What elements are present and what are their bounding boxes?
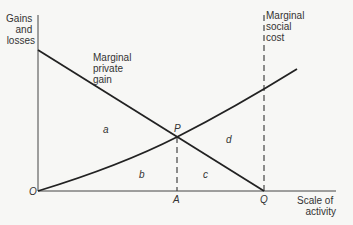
area-b-label: b (139, 169, 145, 180)
y-axis-label: Gains and losses (6, 13, 35, 46)
marginal-social-cost-label: Marginal social cost (266, 10, 307, 43)
area-c-label: c (203, 169, 208, 180)
area-a-label: a (103, 124, 109, 135)
point-q-label: Q (260, 194, 268, 205)
point-p-label: P (174, 123, 181, 134)
marginal-private-gain-line (38, 50, 264, 191)
area-d-label: d (226, 134, 232, 145)
externality-diagram: Gains and losses Scale of activity O Mar… (0, 0, 353, 225)
x-axis-label: Scale of activity (297, 195, 336, 217)
point-a-label: A (172, 194, 180, 205)
origin-label: O (29, 186, 37, 197)
marginal-private-gain-label: Marginal private gain (93, 52, 134, 85)
